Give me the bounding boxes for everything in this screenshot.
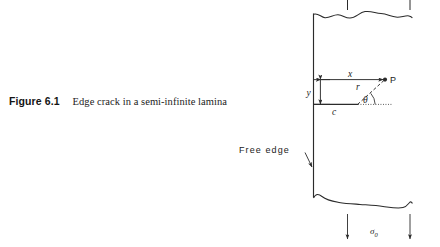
point-p-label: P xyxy=(390,75,396,85)
radius-line xyxy=(358,80,385,104)
x-dimension-label: x xyxy=(347,69,353,79)
stress-label: σ0 xyxy=(370,226,378,238)
top-break-line xyxy=(314,11,413,18)
sigma-subscript: 0 xyxy=(374,231,378,238)
free-edge-leader-arrow xyxy=(305,153,312,168)
edge-crack-diagram: y x c r θ P Free edge σ0 xyxy=(0,0,440,247)
angle-arc xyxy=(371,93,375,104)
figure-page: Figure 6.1Edge crack in a semi-infinite … xyxy=(0,0,440,247)
free-edge-label: Free edge xyxy=(239,145,290,155)
radius-label: r xyxy=(356,82,360,92)
crack-length-label: c xyxy=(332,107,337,117)
angle-theta-label: θ xyxy=(363,95,368,105)
point-p-marker xyxy=(383,78,387,82)
y-dimension-label: y xyxy=(306,88,312,98)
bottom-break-line xyxy=(314,194,413,208)
